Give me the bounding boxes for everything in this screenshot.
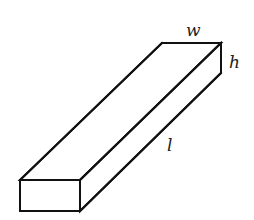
prism-diagram: w h l bbox=[0, 0, 254, 220]
front-face bbox=[20, 180, 80, 211]
length-label: l bbox=[167, 135, 172, 155]
width-label: w bbox=[186, 20, 201, 40]
height-label: h bbox=[229, 52, 240, 72]
